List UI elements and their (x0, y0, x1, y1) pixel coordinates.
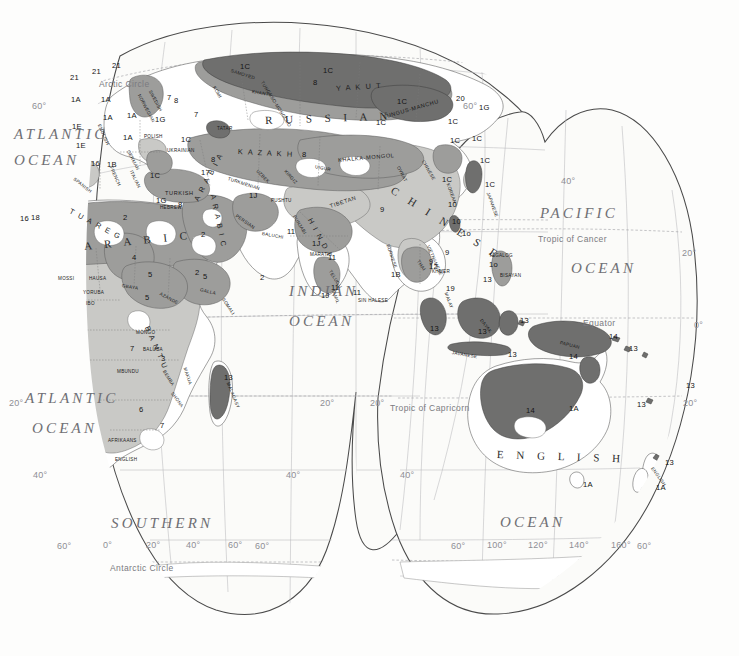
map-canvas (0, 0, 739, 656)
world-language-map: ATLANTICOCEANATLANTICOCEANINDIANOCEANPAC… (0, 0, 739, 656)
